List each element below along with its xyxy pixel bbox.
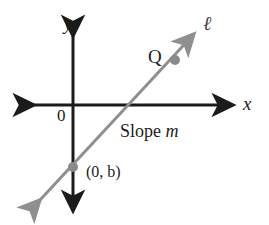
y-axis-label: y xyxy=(64,14,72,33)
coordinate-plane-figure: y x 0 ℓ Q (0, b) Slope m xyxy=(0,0,269,225)
line-name-label: ℓ xyxy=(203,13,211,33)
graph-canvas xyxy=(0,0,269,225)
point-y-intercept xyxy=(68,162,78,172)
point-q-label: Q xyxy=(148,47,162,66)
slope-label: Slope m xyxy=(120,122,179,140)
y-intercept-label: (0, b) xyxy=(86,164,121,180)
slope-variable: m xyxy=(166,121,179,141)
point-q xyxy=(170,55,180,65)
x-axis-label: x xyxy=(243,94,251,113)
origin-label: 0 xyxy=(57,107,66,124)
slope-label-text: Slope xyxy=(120,121,166,141)
